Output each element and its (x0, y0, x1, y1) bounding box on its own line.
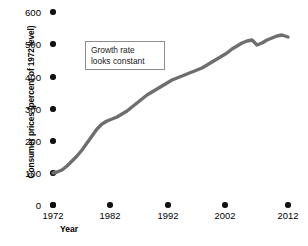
annotation-growth-rate: Growth rate looks constant (85, 41, 165, 70)
annotation-line-2: looks constant (91, 56, 159, 67)
chart-container: Consumer prices (percent of 1972 level) … (0, 0, 308, 246)
cut-off-caption (6, 241, 136, 246)
annotation-line-1: Growth rate (91, 45, 159, 56)
plot-area (0, 0, 308, 246)
